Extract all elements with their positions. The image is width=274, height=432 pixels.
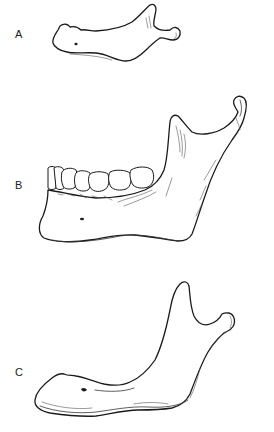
mandible-illustrations — [0, 0, 274, 432]
mandible-b — [39, 96, 246, 242]
mandible-figure: A B C — [0, 0, 274, 432]
mandible-a — [53, 4, 180, 61]
teeth — [48, 167, 154, 192]
mandible-c — [35, 282, 235, 416]
